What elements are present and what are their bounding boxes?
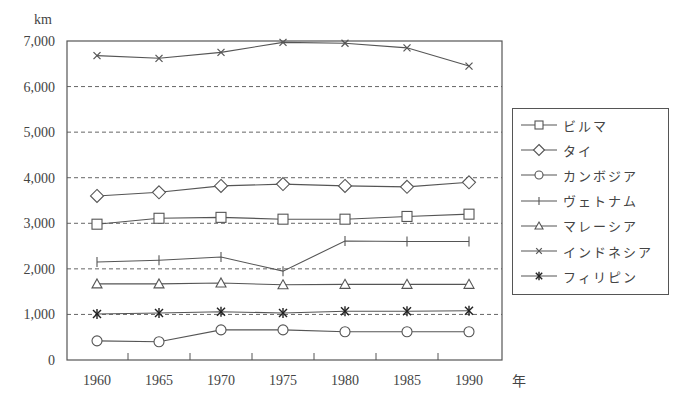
- legend-label: ビルマ: [563, 116, 608, 135]
- plus-marker-icon: [519, 194, 559, 208]
- y-unit-label: km: [34, 12, 52, 27]
- legend-item: インドネシア: [519, 241, 653, 261]
- x-tick-label: 1985: [393, 373, 421, 388]
- x-tick-label: 1970: [207, 373, 235, 388]
- series-square: [92, 209, 474, 229]
- legend-label: インドネシア: [563, 242, 653, 261]
- triangle-marker-icon: [519, 219, 559, 233]
- square-marker-icon: [519, 118, 559, 132]
- legend-item: ヴェトナム: [519, 191, 638, 211]
- y-tick-label: 1,000: [24, 307, 56, 322]
- legend-item: マレーシア: [519, 216, 638, 236]
- x-tick-label: 1990: [455, 373, 483, 388]
- legend-item: タイ: [519, 140, 593, 160]
- legend-label: タイ: [563, 141, 593, 160]
- series-circle: [92, 325, 474, 347]
- y-tick-label: 2,000: [24, 262, 56, 277]
- legend-item: カンボジア: [519, 165, 638, 185]
- x-tick-label: 1960: [83, 373, 111, 388]
- x-unit-label: 年: [512, 374, 526, 389]
- y-tick-label: 4,000: [24, 171, 56, 186]
- series-plus: [97, 236, 469, 276]
- legend-label: カンボジア: [563, 166, 638, 185]
- series-x: [94, 39, 473, 70]
- legend-label: マレーシア: [563, 216, 638, 235]
- legend-item: ビルマ: [519, 115, 608, 135]
- x-tick-label: 1965: [145, 373, 173, 388]
- series-triangle: [92, 278, 474, 289]
- y-tick-label: 3,000: [24, 216, 56, 231]
- series-asterisk: [93, 306, 473, 319]
- diamond-marker-icon: [519, 143, 559, 157]
- y-tick-label: 5,000: [24, 125, 56, 140]
- x-marker-icon: [519, 244, 559, 258]
- legend-item: フィリピン: [519, 266, 638, 286]
- y-tick-label: 7,000: [24, 34, 56, 49]
- series-diamond: [91, 176, 476, 203]
- asterisk-marker-icon: [519, 269, 559, 283]
- legend-label: フィリピン: [563, 267, 638, 286]
- chart-legend: ビルマタイカンボジアヴェトナムマレーシアインドネシアフィリピン: [512, 108, 669, 295]
- legend-label: ヴェトナム: [563, 191, 638, 210]
- x-tick-label: 1980: [331, 373, 359, 388]
- y-tick-label: 0: [48, 353, 55, 368]
- circle-marker-icon: [519, 168, 559, 182]
- y-tick-label: 6,000: [24, 80, 56, 95]
- x-tick-label: 1975: [269, 373, 297, 388]
